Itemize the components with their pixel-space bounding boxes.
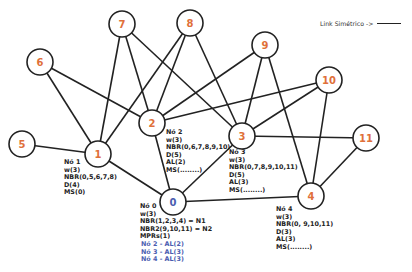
edge-4-0 [173, 196, 311, 202]
node-3-info: Nó 3 w(3) NBR(0,7,8,9,10,11) D(5) AL(3) … [229, 149, 298, 195]
node-0-info: Nó 0 w(3) NBR(1,2,3,4) = N1 NBR2(9,10,11… [140, 203, 212, 264]
node-1-info: Nó 1 w(3) NBR(0,5,6,7,8) D(4) MS(0) [64, 159, 117, 197]
node-6: 6 [27, 49, 53, 75]
node-8: 8 [177, 10, 203, 36]
node-label: 6 [37, 57, 44, 68]
node-2-ms: MS(........) [166, 167, 230, 175]
node-2-info: Nó 2 w(3) NBR(0,6,7,8,9,10) D(5) AL(2) M… [166, 129, 230, 175]
node-2: 2 [139, 110, 165, 136]
symmetric-link-line-icon [377, 23, 401, 24]
node-label: 10 [322, 75, 336, 86]
node-10: 10 [316, 67, 342, 93]
legend: Link Simétrico -> [320, 20, 401, 27]
node-4-ms: MS(........) [276, 244, 333, 252]
node-4-info: Nó 4 w(3) NBR(0, 9,10,11) D(3) AL(3) MS(… [276, 206, 333, 252]
edge-3-11 [242, 136, 366, 138]
node-5: 5 [9, 131, 35, 157]
node-7: 7 [109, 11, 135, 37]
node-label: 9 [262, 40, 269, 51]
edge-1-7 [98, 24, 122, 154]
node-label: 11 [359, 133, 373, 144]
node-label: 3 [239, 131, 246, 142]
node-label: 5 [19, 139, 26, 150]
edge-2-8 [152, 23, 190, 123]
node-label: 7 [119, 19, 126, 30]
node-label: 2 [149, 118, 156, 129]
node-3-ms: MS(........) [229, 187, 298, 195]
legend-label: Link Simétrico -> [320, 20, 373, 27]
node-9: 9 [252, 32, 278, 58]
edge-3-8 [190, 23, 242, 136]
edge-3-10 [242, 80, 329, 136]
edge-2-6 [40, 62, 152, 123]
node-1-ms: MS(0) [64, 189, 117, 197]
node-11: 11 [353, 125, 379, 151]
edge-1-6 [40, 62, 98, 154]
node-3: 3 [229, 123, 255, 149]
edge-2-10 [152, 80, 329, 123]
node-label: 4 [308, 191, 315, 202]
node-0-mpr-node-4: Nó 4 - AL(3) [140, 256, 212, 264]
node-label: 8 [187, 18, 194, 29]
